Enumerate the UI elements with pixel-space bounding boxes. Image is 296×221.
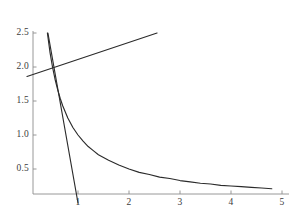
reciprocal-curve	[47, 33, 271, 189]
x-tick-label-4: 4	[221, 198, 241, 208]
y-tick-label-1.5: 1.5	[0, 96, 29, 106]
y-tick-label-2.5: 2.5	[0, 28, 29, 38]
y-tick-label-1.0: 1.0	[0, 130, 29, 140]
y-tick-label-2.0: 2.0	[0, 62, 29, 72]
x-axis-ticks	[78, 191, 282, 195]
data-series-group	[27, 33, 272, 203]
tangent-line	[48, 33, 78, 203]
y-tick-label-0.5: 0.5	[0, 164, 29, 174]
x-tick-label-5: 5	[272, 198, 292, 208]
plot-canvas	[0, 0, 296, 221]
plot-figure: 0.51.01.52.02.5 12345	[0, 0, 296, 221]
rising-line	[27, 33, 157, 77]
x-tick-label-1: 1	[68, 198, 88, 208]
x-tick-label-2: 2	[119, 198, 139, 208]
axis-group	[33, 31, 289, 194]
y-axis-ticks	[33, 33, 37, 169]
x-tick-label-3: 3	[170, 198, 190, 208]
